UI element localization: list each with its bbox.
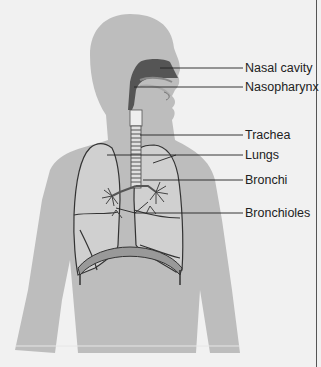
label-trachea: Trachea bbox=[245, 128, 290, 142]
body-silhouette bbox=[15, 14, 240, 353]
larynx bbox=[130, 110, 142, 126]
label-nasal-cavity: Nasal cavity bbox=[245, 61, 312, 75]
label-lungs: Lungs bbox=[245, 148, 279, 162]
label-bronchioles: Bronchioles bbox=[245, 206, 310, 220]
label-bronchi: Bronchi bbox=[245, 173, 287, 187]
trachea bbox=[131, 126, 141, 188]
label-nasopharynx: Nasopharynx bbox=[245, 80, 319, 94]
